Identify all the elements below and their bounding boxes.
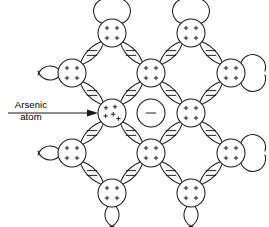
bond-lens [159, 81, 183, 105]
arsenic-lattice-figure: Arsenic atom [0, 0, 269, 227]
covalent-bond [159, 121, 183, 145]
covalent-bond [120, 41, 144, 65]
bond-lens [199, 41, 223, 65]
host-atom [58, 139, 86, 167]
bond-lens [80, 41, 104, 65]
arsenic-atom [98, 99, 126, 127]
covalent-bond [199, 121, 223, 145]
bond-lens [80, 81, 104, 105]
bond-lens [80, 161, 104, 185]
free-electron-layer [137, 99, 165, 127]
bond-lens [120, 161, 144, 185]
covalent-bond [199, 41, 223, 65]
host-atom-circle [177, 99, 205, 127]
covalent-bond [80, 161, 104, 185]
covalent-bond [159, 161, 183, 185]
host-atom-circle [58, 139, 86, 167]
host-atom-circle [217, 139, 245, 167]
host-atom [98, 179, 126, 207]
covalent-bond [80, 81, 104, 105]
host-atom [217, 59, 245, 87]
host-atom-circle [217, 59, 245, 87]
host-atom [137, 59, 165, 87]
arsenic-atom-label-line1: Arsenic [8, 99, 54, 111]
bond-lens [120, 121, 144, 145]
host-atom-circle [177, 19, 205, 47]
bond-lens [199, 161, 223, 185]
covalent-bond [120, 81, 144, 105]
covalent-bond [159, 41, 183, 65]
bond-lens [80, 121, 104, 145]
covalent-bond [199, 161, 223, 185]
arsenic-atom-label-line2: atom [8, 111, 54, 123]
host-atom [58, 59, 86, 87]
bond-lens [199, 81, 223, 105]
covalent-bond [120, 121, 144, 145]
bond-lens [120, 81, 144, 105]
host-atom [177, 99, 205, 127]
host-atom [98, 19, 126, 47]
bond-lens [120, 41, 144, 65]
host-atom [217, 139, 245, 167]
arsenic-atom-label: Arsenic atom [8, 99, 54, 122]
free-electron [137, 99, 165, 127]
covalent-bond [80, 121, 104, 145]
covalent-bond [120, 161, 144, 185]
covalent-bond [199, 81, 223, 105]
arsenic-atom-circle [98, 99, 126, 127]
host-atom [177, 179, 205, 207]
covalent-bond [159, 81, 183, 105]
host-atom [177, 19, 205, 47]
host-atom [137, 139, 165, 167]
bond-lens [199, 121, 223, 145]
bond-lens [159, 41, 183, 65]
covalent-bond [80, 41, 104, 65]
host-atom-circle [137, 139, 165, 167]
bond-lens [159, 121, 183, 145]
host-atom-circle [137, 59, 165, 87]
host-atom-circle [177, 179, 205, 207]
host-atom-circle [98, 179, 126, 207]
host-atom-circle [58, 59, 86, 87]
bond-lens [159, 161, 183, 185]
host-atom-circle [98, 19, 126, 47]
